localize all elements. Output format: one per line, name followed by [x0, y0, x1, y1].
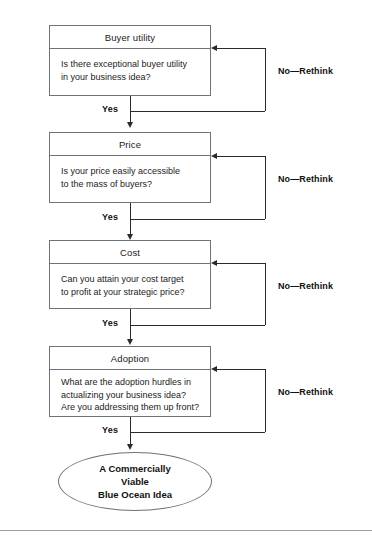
- node-price: Price Is your price easily accessible to…: [49, 132, 211, 203]
- label-yes-cost: Yes: [102, 318, 118, 328]
- connector-adoption-to-terminal: [130, 417, 131, 444]
- arrowhead-cost-to-adoption: [127, 339, 133, 345]
- node-adoption: Adoption What are the adoption hurdles i…: [49, 346, 211, 417]
- node-cost-body: Can you attain your cost target to profi…: [50, 264, 210, 298]
- terminal-line-2: Viable: [98, 475, 172, 488]
- label-no-rethink-1: No—Rethink: [278, 66, 333, 76]
- connector-no-rethink-2-bottom: [130, 219, 265, 220]
- connector-no-rethink-4-top: [217, 369, 265, 370]
- arrowhead-no-rethink-3: [211, 260, 217, 266]
- node-cost-header: Cost: [50, 241, 210, 264]
- node-cost-line-2: to profit at your strategic price?: [61, 286, 210, 299]
- node-cost-line-1: Can you attain your cost target: [61, 273, 210, 286]
- connector-cost-to-adoption: [130, 309, 131, 339]
- node-buyer-utility: Buyer utility Is there exceptional buyer…: [49, 25, 211, 96]
- connector-no-rethink-4-right: [265, 369, 266, 432]
- label-yes-adoption: Yes: [102, 425, 118, 435]
- connector-no-rethink-3-bottom: [130, 325, 265, 326]
- arrowhead-no-rethink-1: [211, 45, 217, 51]
- arrowhead-no-rethink-2: [211, 153, 217, 159]
- node-adoption-line-3: Are you addressing them up front?: [61, 401, 210, 414]
- connector-buyer-utility-to-price: [130, 96, 131, 122]
- node-price-body: Is your price easily accessible to the m…: [50, 156, 210, 190]
- arrowhead-buyer-utility-to-price: [127, 122, 133, 128]
- label-yes-price: Yes: [102, 212, 118, 222]
- terminal-line-1: A Commercially: [98, 462, 172, 475]
- connector-no-rethink-3-top: [217, 263, 265, 264]
- connector-no-rethink-4-bottom: [130, 432, 265, 433]
- node-price-line-1: Is your price easily accessible: [61, 165, 210, 178]
- arrowhead-adoption-to-terminal: [127, 444, 133, 450]
- terminal-text: A Commercially Viable Blue Ocean Idea: [98, 462, 172, 501]
- label-no-rethink-3: No—Rethink: [278, 281, 333, 291]
- node-price-header: Price: [50, 133, 210, 156]
- node-buyer-utility-line-2: in your business idea?: [61, 71, 210, 84]
- connector-no-rethink-1-top: [217, 48, 265, 49]
- node-price-line-2: to the mass of buyers?: [61, 178, 210, 191]
- node-adoption-header: Adoption: [50, 347, 210, 370]
- terminal-line-3: Blue Ocean Idea: [98, 488, 172, 501]
- connector-no-rethink-3-right: [265, 263, 266, 325]
- label-yes-buyer-utility: Yes: [102, 104, 118, 114]
- node-adoption-body: What are the adoption hurdles in actuali…: [50, 370, 210, 414]
- node-adoption-line-1: What are the adoption hurdles in: [61, 376, 210, 389]
- node-cost: Cost Can you attain your cost target to …: [49, 240, 211, 309]
- connector-no-rethink-2-right: [265, 156, 266, 219]
- terminal-blue-ocean-idea: A Commercially Viable Blue Ocean Idea: [58, 452, 212, 511]
- label-no-rethink-2: No—Rethink: [278, 174, 333, 184]
- connector-no-rethink-1-right: [265, 48, 266, 111]
- node-adoption-line-2: actualizing your business idea?: [61, 389, 210, 402]
- flowchart-canvas: Buyer utility Is there exceptional buyer…: [0, 0, 372, 552]
- footer-divider: [0, 530, 372, 531]
- connector-no-rethink-2-top: [217, 156, 265, 157]
- node-buyer-utility-line-1: Is there exceptional buyer utility: [61, 58, 210, 71]
- label-no-rethink-4: No—Rethink: [278, 387, 333, 397]
- arrowhead-no-rethink-4: [211, 366, 217, 372]
- node-buyer-utility-header: Buyer utility: [50, 26, 210, 49]
- node-buyer-utility-body: Is there exceptional buyer utility in yo…: [50, 49, 210, 83]
- connector-no-rethink-1-bottom: [130, 111, 265, 112]
